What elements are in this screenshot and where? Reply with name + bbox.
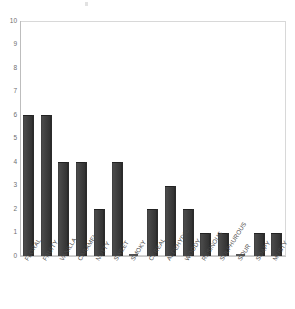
- y-tick-label: 1: [13, 229, 17, 236]
- bar-slot: [180, 21, 198, 256]
- x-axis-labels: FLORALFRUITYVANILLACARAMELNUTTYSWEETSMOK…: [20, 258, 295, 309]
- bar[interactable]: [23, 115, 32, 256]
- y-tick-label: 8: [13, 65, 17, 72]
- bar-series: [20, 21, 286, 256]
- bar-slot: [109, 21, 127, 256]
- bar-slot: [251, 21, 269, 256]
- bar-slot: [268, 21, 286, 256]
- y-tick-label: 10: [10, 18, 17, 25]
- y-axis: 012345678910: [0, 0, 20, 270]
- bar-slot: [126, 21, 144, 256]
- y-tick-label: 2: [13, 206, 17, 213]
- bar[interactable]: [76, 162, 85, 256]
- bar-slot: [20, 21, 38, 256]
- bar[interactable]: [41, 115, 50, 256]
- bar[interactable]: [112, 162, 121, 256]
- bar-slot: [197, 21, 215, 256]
- y-tick-label: 7: [13, 88, 17, 95]
- bar[interactable]: [58, 162, 67, 256]
- top-artifact: [85, 2, 88, 6]
- bar-slot: [215, 21, 233, 256]
- bar-slot: [162, 21, 180, 256]
- y-tick-label: 6: [13, 112, 17, 119]
- bar-slot: [91, 21, 109, 256]
- y-tick-label: 9: [13, 41, 17, 48]
- bar-slot: [55, 21, 73, 256]
- y-tick-label: 0: [13, 253, 17, 260]
- bar-slot: [73, 21, 91, 256]
- y-tick-label: 5: [13, 135, 17, 142]
- bar-chart: 012345678910 FLORALFRUITYVANILLACARAMELN…: [0, 0, 295, 309]
- bar-slot: [144, 21, 162, 256]
- bar-slot: [38, 21, 56, 256]
- y-tick-label: 3: [13, 182, 17, 189]
- y-tick-label: 4: [13, 159, 17, 166]
